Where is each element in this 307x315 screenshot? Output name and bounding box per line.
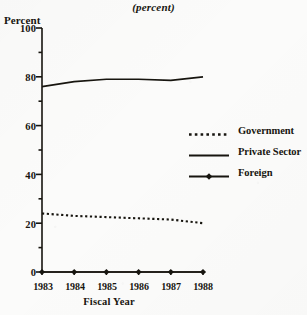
series-line-private-sector <box>42 77 203 87</box>
legend-swatch-private-sector <box>188 152 230 159</box>
y-axis-ticks <box>36 28 42 272</box>
legend-swatch-government <box>188 131 230 138</box>
legend-item-government: Government <box>188 124 306 145</box>
legend-label-government: Government <box>238 125 294 136</box>
chart-legend: Government Private Sector Foreign <box>188 124 306 187</box>
legend-label-foreign: Foreign <box>238 167 272 178</box>
series-line-government <box>42 213 203 223</box>
axis-lines <box>42 28 203 272</box>
series-line-foreign <box>39 269 206 275</box>
legend-item-private-sector: Private Sector <box>188 145 306 166</box>
legend-item-foreign: Foreign <box>188 166 306 187</box>
legend-label-private-sector: Private Sector <box>238 146 301 157</box>
diamond-marker-icon <box>206 173 213 179</box>
chart-container: (percent) Percent 100 80 60 40 20 0 1983… <box>0 0 307 315</box>
legend-swatch-foreign <box>188 173 230 180</box>
